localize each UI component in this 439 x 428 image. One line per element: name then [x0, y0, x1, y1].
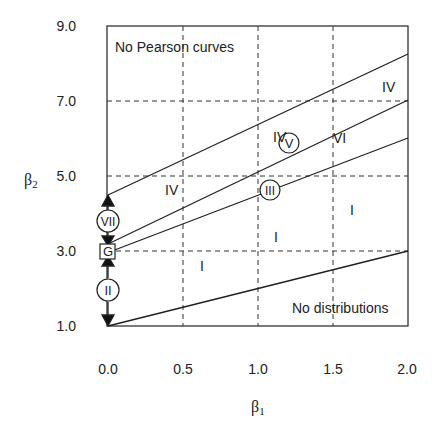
y-tick: 7.0 [57, 93, 77, 109]
no-pearson-label: No Pearson curves [115, 39, 234, 55]
region-ii-label: II [104, 283, 111, 298]
region-i-label: I [350, 202, 354, 218]
region-vi-label: VI [333, 130, 346, 146]
no-distributions-label: No distributions [292, 300, 389, 316]
pearson-chart: 9.0 7.0 5.0 3.0 1.0 0.0 0.5 1.0 1.5 2.0 … [0, 0, 439, 428]
y-tick: 3.0 [57, 243, 77, 259]
y-axis-title: β2 [24, 171, 38, 190]
region-iv-label: IV [165, 182, 179, 198]
type-v-line [108, 100, 408, 244]
region-iv-label: IV [382, 79, 396, 95]
region-i-label: I [274, 229, 278, 245]
x-axis-title: β1 [251, 398, 265, 417]
x-tick: 0.5 [173, 361, 193, 377]
region-iii-label: III [265, 184, 275, 198]
x-tick: 0.0 [98, 361, 118, 377]
region-g-label: G [103, 244, 113, 259]
y-tick: 1.0 [57, 318, 77, 334]
x-tick: 2.0 [397, 361, 417, 377]
y-tick: 5.0 [57, 168, 77, 184]
region-v-label: V [285, 136, 294, 151]
region-i-label: I [200, 258, 204, 274]
x-tick: 1.5 [323, 361, 343, 377]
y-tick: 9.0 [57, 18, 77, 34]
region-vii-label: VII [101, 215, 116, 229]
x-tick: 1.0 [248, 361, 268, 377]
gridlines [107, 26, 408, 326]
type-iii-line [112, 138, 408, 251]
arrow-up-icon [102, 195, 114, 206]
